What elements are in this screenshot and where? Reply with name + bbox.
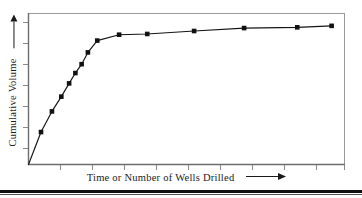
- page-divider-thin: [0, 194, 362, 195]
- up-arrow-icon: [10, 15, 19, 49]
- page-divider-thick: [0, 190, 362, 193]
- figure-container: Cumulative Volume: [0, 0, 362, 198]
- x-axis-label-text: Time or Number of Wells Drilled: [87, 172, 235, 183]
- right-arrow-icon: [246, 172, 286, 181]
- y-axis-label-text: Cumulative Volume: [7, 58, 18, 146]
- y-axis-label: Cumulative Volume: [7, 15, 18, 147]
- x-axis-label-block: Time or Number of Wells Drilled: [28, 168, 345, 186]
- plot-area: [28, 13, 345, 165]
- y-axis-label-block: Cumulative Volume: [2, 13, 24, 165]
- x-axis-label: Time or Number of Wells Drilled: [87, 172, 287, 183]
